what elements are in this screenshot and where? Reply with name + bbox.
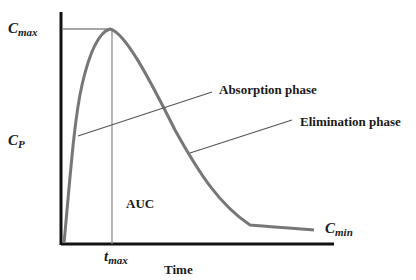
cmax-label: Cmax — [8, 20, 38, 38]
cp-label: CP — [8, 132, 25, 150]
tmax-label: tmax — [104, 248, 128, 266]
elimination-phase-label: Elimination phase — [300, 114, 401, 130]
auc-label: AUC — [126, 196, 154, 212]
absorption-phase-label: Absorption phase — [219, 82, 317, 98]
pk-curve-chart — [0, 0, 416, 280]
cmin-label: Cmin — [325, 220, 353, 238]
absorption-leader — [78, 92, 212, 136]
x-axis-title: Time — [164, 262, 193, 278]
concentration-curve — [64, 29, 314, 243]
elimination-leader — [190, 120, 292, 153]
